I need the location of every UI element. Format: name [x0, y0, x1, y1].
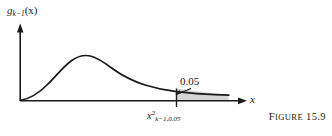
- figure-caption: FIGURE15.9: [269, 112, 326, 123]
- critical-value-label: x2k−1,0.05: [147, 110, 181, 123]
- figure-caption-word-rest: IGURE: [275, 112, 303, 122]
- x-axis-arrowhead: [238, 97, 247, 104]
- figure-container: gk−1(x) x 0.05 x2k−1,0.05 FIGURE15.9: [0, 0, 332, 136]
- tail-area-label: 0.05: [180, 76, 199, 87]
- y-axis-label: gk−1(x): [7, 5, 37, 18]
- critical-value-subscript: k−1,0.05: [155, 115, 180, 123]
- y-axis-arrowhead: [17, 24, 24, 33]
- x-axis-label: x: [250, 94, 255, 105]
- y-axis-label-argument: (x): [25, 4, 38, 16]
- figure-caption-number: 15.9: [306, 111, 326, 122]
- y-axis-label-subscript: k−1: [13, 9, 25, 18]
